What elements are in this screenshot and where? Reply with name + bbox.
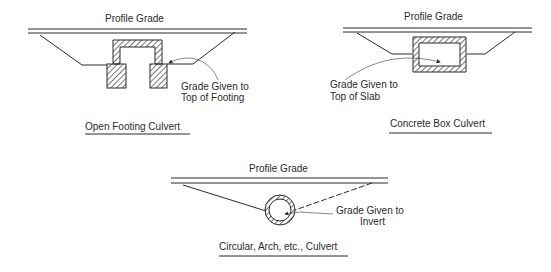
diagram-title: Open Footing Culvert [85,121,180,132]
profile-grade-label: Profile Grade [404,11,463,22]
note-line-2: Invert [360,216,385,227]
right-embankment-line [167,32,235,64]
note-line-2: Top of Footing [181,92,244,103]
note-line-1: Grade Given to [336,205,404,216]
culvert-arch [113,40,162,64]
open-footing-culvert-diagram: Profile Grade Grade Given to Top of Foot… [28,13,249,134]
diagram-title: Concrete Box Culvert [390,118,485,129]
left-footing [107,64,126,88]
concrete-box-culvert-diagram: Profile Grade Grade Given to Top of Slab… [330,11,532,133]
pipe-wall [267,197,293,223]
culvert-grade-diagram: Profile Grade Grade Given to Top of Foot… [0,0,551,272]
box-culvert [413,37,466,72]
note-line-1: Grade Given to [330,79,398,90]
diagram-title: Circular, Arch, etc., Culvert [219,241,338,252]
profile-grade-label: Profile Grade [249,163,308,174]
leader-arrow [169,58,218,80]
pipe-inner [269,199,291,221]
right-embankment-line [467,32,515,54]
left-embankment-line [357,33,412,54]
left-embankment-line [183,185,266,211]
note-line-2: Top of Slab [330,91,380,102]
left-embankment-line [40,35,107,65]
profile-grade-label: Profile Grade [105,13,164,24]
right-footing [150,64,167,88]
circular-culvert-diagram: Profile Grade Grade Given to Invert Circ… [171,163,404,256]
note-line-1: Grade Given to [181,81,249,92]
